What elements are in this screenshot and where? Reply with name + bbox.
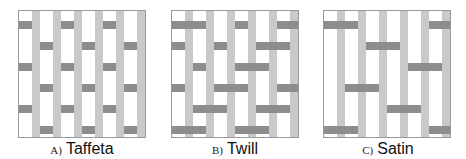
weft-float xyxy=(214,105,227,113)
weft-float xyxy=(19,105,32,113)
weft-float xyxy=(256,42,269,50)
warp-thread xyxy=(358,11,366,137)
weft-float xyxy=(61,63,74,71)
weft-float xyxy=(124,84,137,92)
caption-name: Twill xyxy=(227,140,258,157)
satin-weave-diagram xyxy=(323,10,451,138)
weft-float xyxy=(19,63,32,71)
weft-over-warp xyxy=(290,21,298,29)
weft-float xyxy=(82,126,95,134)
weft-float xyxy=(256,105,269,113)
weft-float xyxy=(277,84,290,92)
weft-float xyxy=(193,63,206,71)
weft-float xyxy=(429,126,442,134)
taffeta-caption: A)Taffeta xyxy=(7,140,157,158)
weft-over-warp xyxy=(337,21,345,29)
weft-over-warp xyxy=(400,105,408,113)
weft-float xyxy=(235,63,248,71)
weft-over-warp xyxy=(358,84,366,92)
weft-float xyxy=(19,21,32,29)
weft-over-warp xyxy=(421,63,429,71)
weft-float xyxy=(193,21,206,29)
weft-float xyxy=(366,84,379,92)
weft-float xyxy=(40,126,53,134)
weft-float xyxy=(429,21,442,29)
caption-name: Taffeta xyxy=(66,140,114,157)
warp-thread xyxy=(53,11,61,137)
weft-over-warp xyxy=(337,126,345,134)
weft-float xyxy=(193,126,206,134)
warp-thread xyxy=(137,11,145,137)
weft-float xyxy=(366,42,379,50)
weft-float xyxy=(124,126,137,134)
weft-over-warp xyxy=(227,84,235,92)
twill-weave-diagram xyxy=(171,10,299,138)
weft-over-warp xyxy=(248,63,256,71)
weft-float xyxy=(172,21,185,29)
weft-float xyxy=(103,21,116,29)
weft-float xyxy=(324,21,337,29)
weft-over-warp xyxy=(248,126,256,134)
weft-float xyxy=(61,105,74,113)
weft-float xyxy=(193,105,206,113)
weft-float xyxy=(235,126,248,134)
caption-name: Satin xyxy=(377,140,413,157)
weft-float xyxy=(277,42,290,50)
warp-thread xyxy=(379,11,387,137)
weft-over-warp xyxy=(185,126,193,134)
warp-thread xyxy=(248,11,256,137)
warp-thread xyxy=(290,11,298,137)
weft-float xyxy=(103,63,116,71)
warp-thread xyxy=(74,11,82,137)
warp-thread xyxy=(421,11,429,137)
weft-over-warp xyxy=(185,21,193,29)
weft-float xyxy=(345,21,358,29)
weft-float xyxy=(429,63,442,71)
weft-float xyxy=(172,42,185,50)
warp-thread xyxy=(95,11,103,137)
satin-caption: C)Satin xyxy=(313,140,463,158)
warp-thread xyxy=(400,11,408,137)
weft-over-warp xyxy=(442,126,450,134)
weft-float xyxy=(214,42,227,50)
weft-over-warp xyxy=(379,42,387,50)
weft-over-warp xyxy=(206,105,214,113)
warp-thread xyxy=(32,11,40,137)
weft-float xyxy=(61,21,74,29)
weft-float xyxy=(82,42,95,50)
caption-letter: B) xyxy=(212,144,223,156)
weft-over-warp xyxy=(269,105,277,113)
weft-float xyxy=(387,42,400,50)
weft-float xyxy=(172,126,185,134)
warp-thread xyxy=(442,11,450,137)
warp-thread xyxy=(337,11,345,137)
weft-float xyxy=(345,126,358,134)
weft-float xyxy=(40,42,53,50)
weft-float xyxy=(408,63,421,71)
warp-thread xyxy=(206,11,214,137)
weft-float xyxy=(256,126,269,134)
weft-float xyxy=(277,21,290,29)
weft-float xyxy=(277,105,290,113)
weft-float xyxy=(256,63,269,71)
twill-caption: B)Twill xyxy=(160,140,310,158)
warp-thread xyxy=(185,11,193,137)
weft-float xyxy=(324,126,337,134)
weft-over-warp xyxy=(442,21,450,29)
taffeta-weave-diagram xyxy=(18,10,146,138)
weft-float xyxy=(387,105,400,113)
weft-float xyxy=(408,105,421,113)
warp-thread xyxy=(116,11,124,137)
weft-float xyxy=(82,84,95,92)
warp-thread xyxy=(227,11,235,137)
weft-float xyxy=(214,84,227,92)
weft-over-warp xyxy=(269,42,277,50)
warp-thread xyxy=(269,11,277,137)
caption-letter: A) xyxy=(50,144,62,156)
weft-float xyxy=(235,21,248,29)
weft-float xyxy=(40,84,53,92)
weft-float xyxy=(345,84,358,92)
weft-float xyxy=(124,42,137,50)
weft-over-warp xyxy=(290,84,298,92)
weft-float xyxy=(103,105,116,113)
